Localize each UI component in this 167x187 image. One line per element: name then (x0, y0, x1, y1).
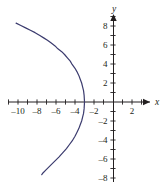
y-tick-label: 2 (103, 78, 108, 88)
y-tick-label: 6 (103, 40, 108, 50)
y-tick-label: 4 (103, 59, 108, 69)
y-axis-label: y (111, 4, 117, 14)
x-tick-label: –10 (10, 106, 25, 116)
y-tick-label: –4 (98, 135, 109, 145)
x-axis-tick-labels: –10–8–6–4–22 (10, 106, 134, 116)
x-axis-arrowhead (143, 99, 150, 105)
x-tick-label: –2 (89, 106, 99, 116)
y-tick-label: 8 (103, 21, 108, 31)
y-tick-label: –6 (98, 154, 109, 164)
x-tick-label: 2 (130, 106, 135, 116)
x-tick-label: –4 (70, 106, 81, 116)
graph-figure: –10–8–6–4–22 8642–2–4–6–8 x y (0, 0, 167, 187)
coordinate-plane: –10–8–6–4–22 8642–2–4–6–8 x y (0, 0, 167, 187)
x-tick-label: –6 (51, 106, 62, 116)
x-axis-label: x (154, 97, 160, 107)
y-tick-label: –2 (98, 116, 108, 126)
y-axis-arrowhead (110, 14, 116, 21)
y-tick-label: –8 (98, 173, 109, 183)
parabola-curve (16, 23, 84, 175)
x-tick-label: –8 (32, 106, 43, 116)
